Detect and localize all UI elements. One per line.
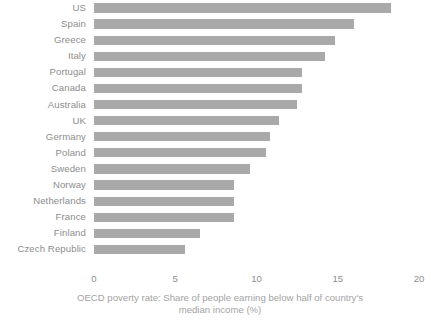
category-label: France bbox=[0, 209, 86, 225]
bar-track bbox=[94, 161, 425, 177]
bar-track bbox=[94, 97, 425, 113]
bar-row: Greece bbox=[0, 32, 431, 48]
bar-row: Poland bbox=[0, 145, 431, 161]
category-label: Spain bbox=[0, 16, 86, 32]
category-label: Netherlands bbox=[0, 193, 86, 209]
bar-row: Norway bbox=[0, 177, 431, 193]
bar[interactable] bbox=[94, 197, 234, 206]
bar[interactable] bbox=[94, 3, 391, 12]
category-label: UK bbox=[0, 113, 86, 129]
bar-track bbox=[94, 16, 425, 32]
bar-track bbox=[94, 209, 425, 225]
category-label: Canada bbox=[0, 80, 86, 96]
bar-track bbox=[94, 129, 425, 145]
bar[interactable] bbox=[94, 148, 266, 157]
x-tick-label: 20 bbox=[414, 272, 425, 286]
x-tick-label: 15 bbox=[332, 272, 343, 286]
bar-row: UK bbox=[0, 113, 431, 129]
category-label: Portugal bbox=[0, 64, 86, 80]
bar-track bbox=[94, 145, 425, 161]
category-label: Sweden bbox=[0, 161, 86, 177]
category-label: Poland bbox=[0, 145, 86, 161]
bar-row: Spain bbox=[0, 16, 431, 32]
bar-row: Czech Republic bbox=[0, 241, 431, 257]
x-axis-title: OECD poverty rate: Share of people earni… bbox=[60, 292, 380, 317]
bar-track bbox=[94, 80, 425, 96]
bar-track bbox=[94, 48, 425, 64]
bar-row: Finland bbox=[0, 225, 431, 241]
category-label: Czech Republic bbox=[0, 241, 86, 257]
category-label: Italy bbox=[0, 48, 86, 64]
bar-track bbox=[94, 113, 425, 129]
bar-track bbox=[94, 64, 425, 80]
category-label: Australia bbox=[0, 97, 86, 113]
bar[interactable] bbox=[94, 84, 302, 93]
x-tick-label: 5 bbox=[173, 272, 178, 286]
bar-track bbox=[94, 177, 425, 193]
bar-row: Germany bbox=[0, 129, 431, 145]
bar[interactable] bbox=[94, 164, 250, 173]
bar-row: Australia bbox=[0, 97, 431, 113]
category-label: Germany bbox=[0, 129, 86, 145]
bar-row: US bbox=[0, 0, 431, 16]
x-tick-label: 0 bbox=[91, 272, 96, 286]
category-label: Norway bbox=[0, 177, 86, 193]
category-label: Greece bbox=[0, 32, 86, 48]
bar[interactable] bbox=[94, 19, 354, 28]
bar-track bbox=[94, 32, 425, 48]
bar-track bbox=[94, 0, 425, 16]
bar[interactable] bbox=[94, 229, 200, 238]
bar-track bbox=[94, 193, 425, 209]
bar-row: Portugal bbox=[0, 64, 431, 80]
bar-row: Sweden bbox=[0, 161, 431, 177]
bar-row: France bbox=[0, 209, 431, 225]
bar[interactable] bbox=[94, 100, 297, 109]
category-label: Finland bbox=[0, 225, 86, 241]
bar-row: Canada bbox=[0, 80, 431, 96]
bar-track bbox=[94, 241, 425, 257]
bar[interactable] bbox=[94, 36, 335, 45]
bar[interactable] bbox=[94, 213, 234, 222]
bar-chart: USSpainGreeceItalyPortugalCanadaAustrali… bbox=[0, 0, 431, 323]
bar[interactable] bbox=[94, 180, 234, 189]
x-axis: 05101520 bbox=[0, 272, 431, 290]
bar-track bbox=[94, 225, 425, 241]
category-label: US bbox=[0, 0, 86, 16]
x-tick-label: 10 bbox=[251, 272, 262, 286]
bar[interactable] bbox=[94, 52, 325, 61]
bar[interactable] bbox=[94, 245, 185, 254]
bar[interactable] bbox=[94, 132, 270, 141]
bar-row: Italy bbox=[0, 48, 431, 64]
bar-row: Netherlands bbox=[0, 193, 431, 209]
bar[interactable] bbox=[94, 68, 302, 77]
bar[interactable] bbox=[94, 116, 279, 125]
plot-area: USSpainGreeceItalyPortugalCanadaAustrali… bbox=[0, 0, 431, 272]
bar-rows: USSpainGreeceItalyPortugalCanadaAustrali… bbox=[0, 0, 431, 258]
